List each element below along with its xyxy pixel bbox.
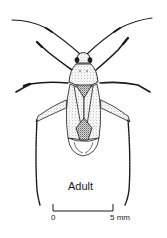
middle-leg-left bbox=[16, 82, 68, 92]
scale-bar bbox=[53, 204, 113, 211]
insect-illustration bbox=[0, 0, 167, 238]
front-leg-right bbox=[96, 38, 128, 70]
front-leg-left bbox=[37, 42, 72, 70]
middle-leg-right bbox=[100, 82, 150, 92]
scale-start-label: 0 bbox=[51, 213, 55, 222]
figure-caption: Adult bbox=[68, 180, 93, 192]
antenna-left bbox=[12, 20, 80, 54]
hind-leg-right bbox=[101, 100, 130, 205]
scale-end-label: 5 mm bbox=[110, 213, 130, 222]
hind-leg-left bbox=[36, 100, 66, 205]
head bbox=[75, 53, 92, 64]
pronotum bbox=[69, 64, 98, 86]
